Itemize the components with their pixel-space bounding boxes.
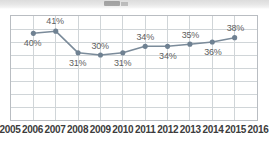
data-label: 34% <box>137 33 154 42</box>
plot-area <box>10 15 258 121</box>
title-glyph-fragment <box>104 1 120 6</box>
data-series <box>11 16 257 120</box>
x-tick-label: 2005 <box>0 124 21 136</box>
x-tick-label: 2011 <box>135 124 156 136</box>
x-tick-label: 2010 <box>112 124 133 136</box>
data-label: 40% <box>24 39 41 48</box>
data-label: 36% <box>204 48 221 57</box>
x-tick-label: 2006 <box>22 124 43 136</box>
cropped-title-strip <box>0 0 269 9</box>
x-tick-label: 2014 <box>202 124 223 136</box>
data-label: 41% <box>46 17 63 26</box>
x-tick-label: 2008 <box>67 124 88 136</box>
data-label: 31% <box>114 59 131 68</box>
x-tick-label: 2012 <box>157 124 178 136</box>
title-glyph-fragment-2 <box>121 2 128 6</box>
data-label: 35% <box>182 31 199 40</box>
data-label: 34% <box>159 52 176 61</box>
line-chart: 40%41%31%30%31%34%34%35%36%38% 200520062… <box>0 0 269 142</box>
data-label: 31% <box>69 59 86 68</box>
x-axis-tick-labels: 2005200620072008200920102011201220132014… <box>10 124 258 138</box>
x-tick-label: 2016 <box>247 124 268 136</box>
x-tick-label: 2013 <box>180 124 201 136</box>
data-label: 30% <box>91 42 108 51</box>
x-tick-label: 2007 <box>45 124 66 136</box>
data-label: 38% <box>227 24 244 33</box>
x-tick-label: 2009 <box>90 124 111 136</box>
x-tick-label: 2015 <box>225 124 246 136</box>
